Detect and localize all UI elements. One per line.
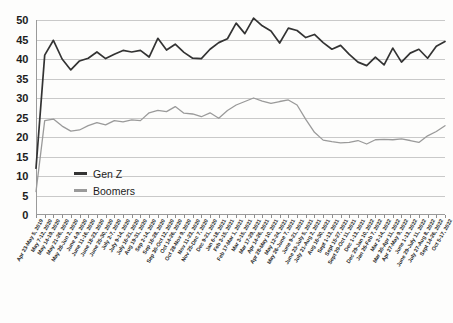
y-tick-label: 15 — [16, 151, 28, 163]
y-tick-label: 45 — [16, 34, 28, 46]
y-tick-label: 50 — [16, 14, 28, 26]
y-tick-label: 20 — [16, 131, 28, 143]
y-tick-label: 30 — [16, 92, 28, 104]
legend-item-boomers: Boomers — [74, 182, 135, 199]
y-axis-labels: 05101520253035404550 — [0, 20, 32, 215]
y-tick-label: 35 — [16, 73, 28, 85]
y-tick-label: 25 — [16, 112, 28, 124]
y-tick-label: 40 — [16, 53, 28, 65]
legend-swatch-boomers — [74, 189, 87, 192]
legend-swatch-genz — [74, 172, 87, 175]
line-genz — [36, 18, 445, 168]
legend-label-genz: Gen Z — [93, 168, 122, 180]
x-axis-labels: Apr 23-May 5, 2019May 7-12, 2020May 14-1… — [0, 218, 452, 323]
legend-item-genz: Gen Z — [74, 165, 135, 182]
y-tick-label: 5 — [22, 190, 28, 202]
y-tick-label: 10 — [16, 170, 28, 182]
chart-legend: Gen Z Boomers — [74, 165, 135, 199]
legend-label-boomers: Boomers — [93, 185, 135, 197]
